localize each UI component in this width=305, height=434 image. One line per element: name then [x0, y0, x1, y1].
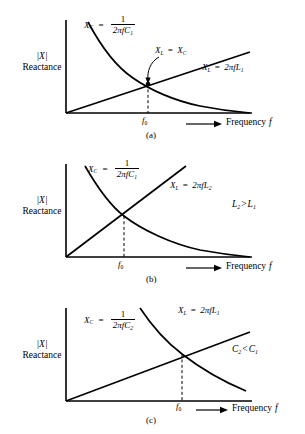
annotation-arrow-line: [148, 57, 159, 80]
capacitive-fraction-a: 1 2πfC1: [111, 15, 135, 36]
panel-caption-a: (a): [146, 131, 156, 140]
condition-label-c: C2<C1: [232, 345, 258, 356]
y-axis-symbol: |X|: [36, 339, 47, 349]
capacitive-equation-a: XC = 1 2πfC1: [84, 15, 135, 36]
panel-b: |X| Reactance XC = 1 2πfC1 XL = 2πfL2 L2…: [0, 144, 305, 289]
y-axis-text: Reactance: [16, 207, 68, 217]
x-axis-label-c: Frequencyf: [232, 404, 278, 414]
panel-caption-b: (b): [146, 275, 157, 284]
x-axis-label-b: Frequencyf: [226, 262, 272, 272]
resonance-label-b: f0: [118, 260, 123, 270]
y-axis-symbol: |X|: [36, 195, 47, 205]
capacitive-fraction-b: 1 2πfC1: [115, 159, 139, 180]
y-axis-label: |X| Reactance: [16, 52, 68, 72]
y-axis-label: |X| Reactance: [16, 340, 68, 360]
capacitive-equation-c: XC = 1 2πfC2: [84, 310, 135, 331]
inductive-reactance-line: [66, 332, 250, 401]
inductive-equation-c: XL = 2πfL1: [178, 306, 220, 316]
panel-a: |X| Reactance XC = 1 2πfC1 XL = XC XL = …: [0, 0, 305, 145]
capacitive-fraction-c: 1 2πfC2: [111, 310, 135, 331]
x-axis-label-a: Frequencyf: [226, 118, 272, 128]
frequency-arrow-head: [214, 265, 222, 271]
y-axis-symbol: |X|: [36, 51, 47, 61]
y-axis-label: |X| Reactance: [16, 196, 68, 216]
inductive-equation-a: XL = 2πfL1: [202, 63, 244, 73]
resonance-label-a: f0: [142, 116, 147, 126]
panel-caption-c: (c): [146, 416, 156, 425]
panel-c: |X| Reactance XC = 1 2πfC2 XL = 2πfL1 C2…: [0, 288, 305, 433]
condition-label-b: L2>L1: [232, 200, 256, 211]
inductive-equation-b: XL = 2πfL2: [170, 181, 212, 191]
resonance-annotation-a: XL = XC: [155, 46, 186, 56]
resonance-label-c: f0: [176, 402, 181, 412]
frequency-arrow-head: [214, 121, 222, 127]
frequency-arrow-head: [220, 407, 228, 413]
y-axis-text: Reactance: [16, 351, 68, 361]
y-axis-text: Reactance: [16, 63, 68, 73]
capacitive-equation-b: XC = 1 2πfC1: [88, 159, 139, 180]
capacitive-reactance-curve: [140, 308, 246, 391]
